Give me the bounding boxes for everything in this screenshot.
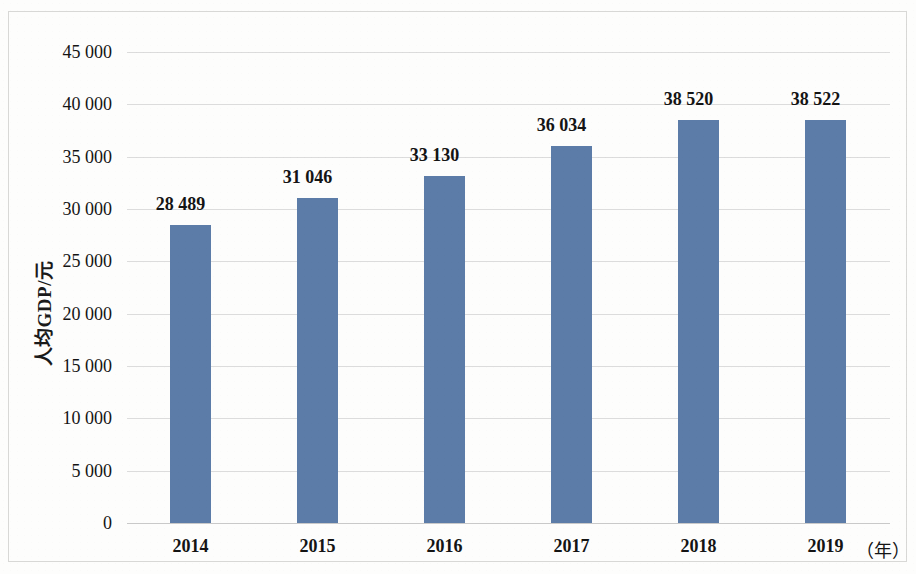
bar xyxy=(424,176,465,523)
bar-group: 38 520 xyxy=(635,52,762,523)
bar xyxy=(678,120,719,523)
y-axis-tick-label: 40 000 xyxy=(8,94,112,115)
y-axis-tick-label: 5 000 xyxy=(8,460,112,481)
x-axis-tick-label: 2016 xyxy=(381,536,508,557)
x-axis-tick-label: 2015 xyxy=(254,536,381,557)
bar xyxy=(170,225,211,523)
y-axis-tick-label: 35 000 xyxy=(8,146,112,167)
bar-value-label: 38 520 xyxy=(623,89,754,110)
bar-value-label: 31 046 xyxy=(242,167,373,188)
y-axis-tick-label: 10 000 xyxy=(8,408,112,429)
y-axis-tick-label: 20 000 xyxy=(8,303,112,324)
x-axis-unit-label: （年） xyxy=(856,536,910,562)
y-axis-tick-label: 25 000 xyxy=(8,251,112,272)
bar-value-label: 38 522 xyxy=(750,89,881,110)
bar xyxy=(551,146,592,523)
bar-value-label: 33 130 xyxy=(369,145,500,166)
bar xyxy=(297,198,338,523)
bar-group: 33 130 xyxy=(381,52,508,523)
x-axis-tick-label: 2014 xyxy=(127,536,254,557)
bar xyxy=(805,120,846,523)
bar-value-label: 36 034 xyxy=(496,115,627,136)
bar-value-label: 28 489 xyxy=(115,194,246,215)
plot-area: 28 48931 04633 13036 03438 52038 522 xyxy=(127,52,890,523)
bar-group: 28 489 xyxy=(127,52,254,523)
bar-group: 36 034 xyxy=(508,52,635,523)
x-axis-tick-label: 2017 xyxy=(508,536,635,557)
y-axis-tick-label: 0 xyxy=(8,513,112,534)
bar-group: 38 522 xyxy=(762,52,889,523)
y-axis-tick-label: 30 000 xyxy=(8,199,112,220)
bar-group: 31 046 xyxy=(254,52,381,523)
y-axis-tick-label: 45 000 xyxy=(8,42,112,63)
gridline xyxy=(127,523,890,524)
x-axis-tick-label: 2018 xyxy=(635,536,762,557)
y-axis-tick-label: 15 000 xyxy=(8,356,112,377)
bar-chart-figure: 人均GDP/元 05 00010 00015 00020 00025 00030… xyxy=(0,0,916,574)
